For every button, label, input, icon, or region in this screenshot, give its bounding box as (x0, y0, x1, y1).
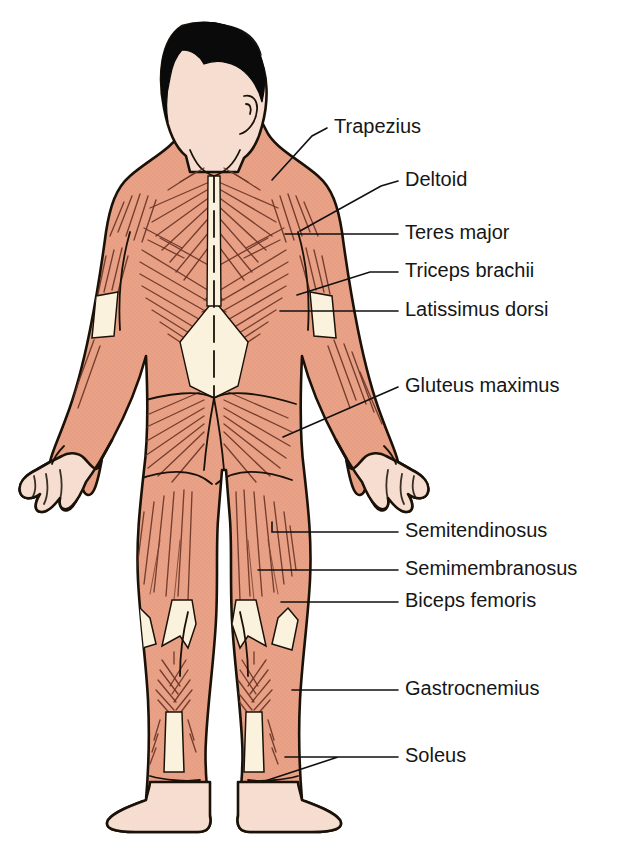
anatomy-diagram: Trapezius Deltoid Teres major Triceps br… (0, 0, 622, 863)
anatomy-illustration: Trapezius Deltoid Teres major Triceps br… (0, 0, 622, 863)
label-text-teres-major: Teres major (405, 221, 510, 243)
label-text-soleus: Soleus (405, 744, 466, 766)
label-text-gluteus-maximus: Gluteus maximus (405, 374, 560, 396)
label-text-deltoid: Deltoid (405, 168, 467, 190)
label-text-semitendinosus: Semitendinosus (405, 519, 547, 541)
label-text-latissimus-dorsi: Latissimus dorsi (405, 298, 548, 320)
label-text-gastrocnemius: Gastrocnemius (405, 677, 540, 699)
label-text-triceps-brachii: Triceps brachii (405, 259, 534, 281)
label-text-semimembranosus: Semimembranosus (405, 557, 577, 579)
label-text-trapezius: Trapezius (334, 115, 421, 137)
label-text-biceps-femoris: Biceps femoris (405, 589, 536, 611)
